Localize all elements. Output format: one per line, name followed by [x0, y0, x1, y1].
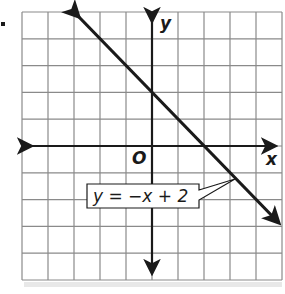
y-axis-label: y	[160, 13, 172, 33]
equation-label: y = −x + 2	[92, 186, 188, 206]
x-axis-label: x	[265, 149, 278, 169]
equation-callout: y = −x + 2	[87, 179, 235, 208]
grid-shadow	[24, 282, 282, 287]
origin-label: O	[132, 148, 146, 168]
coordinate-graph: y x O y = −x + 2	[0, 0, 285, 294]
